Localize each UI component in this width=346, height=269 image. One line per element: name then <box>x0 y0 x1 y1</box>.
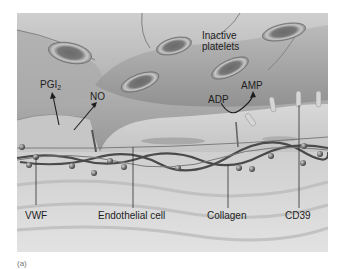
label-inactive-line1: Inactive <box>202 30 239 41</box>
label-vwf: VWF <box>25 210 47 221</box>
label-platelets-line2: platelets <box>202 41 239 52</box>
label-amp: AMP <box>241 80 263 91</box>
nucleus <box>141 138 205 145</box>
label-adp: ADP <box>208 94 229 105</box>
label-collagen: Collagen <box>207 210 246 221</box>
label-no: NO <box>90 91 105 102</box>
label-pgi2-subscript: 2 <box>57 84 61 91</box>
figure-caption: (a) <box>17 259 27 268</box>
label-pgi2: PGI2 <box>40 79 61 90</box>
label-inactive-platelets: Inactive platelets <box>202 30 239 52</box>
label-endothelial-cell: Endothelial cell <box>98 210 165 221</box>
label-pgi2-main: PGI <box>40 79 57 90</box>
label-cd39: CD39 <box>285 210 311 221</box>
